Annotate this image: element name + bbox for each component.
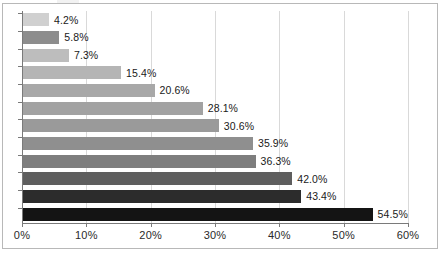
y-axis-tick [18, 137, 22, 138]
y-axis-tick [18, 172, 22, 173]
bar [22, 208, 373, 221]
y-axis-spine [22, 11, 23, 224]
bar-chart-figure: 4.2%5.8%7.3%15.4%20.6%28.1%30.6%35.9%36.… [0, 0, 441, 255]
y-axis-tick [18, 49, 22, 50]
bar [22, 49, 69, 62]
bar-value-label: 35.9% [258, 137, 288, 149]
bar-value-label: 20.6% [160, 84, 190, 96]
bar [22, 137, 253, 150]
bar-value-label: 54.5% [378, 208, 408, 220]
bar-value-label: 36.3% [261, 155, 291, 167]
y-axis-tick [18, 31, 22, 32]
bar-row: 4.2% [22, 13, 408, 26]
y-axis-tick [18, 119, 22, 120]
bar-row: 7.3% [22, 49, 408, 62]
bar-row: 43.4% [22, 190, 408, 203]
x-axis-tick [408, 223, 409, 227]
x-axis-tick-label: 20% [139, 229, 162, 241]
bar [22, 119, 219, 132]
x-axis-tick [22, 223, 23, 227]
y-axis-tick [18, 13, 22, 14]
bar-value-label: 43.4% [306, 190, 336, 202]
x-axis-tick-label: 10% [75, 229, 98, 241]
bar-value-label: 7.3% [74, 49, 98, 61]
bar-value-label: 4.2% [54, 14, 78, 26]
x-axis-tick [344, 223, 345, 227]
bar [22, 190, 301, 203]
bar-row: 30.6% [22, 119, 408, 132]
bar-row: 36.3% [22, 155, 408, 168]
bar-value-label: 28.1% [208, 102, 238, 114]
x-axis-tick [86, 223, 87, 227]
bar-row: 28.1% [22, 102, 408, 115]
y-axis-tick [18, 66, 22, 67]
x-axis-tick-label: 40% [268, 229, 291, 241]
x-axis-tick-label: 50% [332, 229, 355, 241]
plot-area: 4.2%5.8%7.3%15.4%20.6%28.1%30.6%35.9%36.… [22, 11, 408, 223]
bar-row: 42.0% [22, 172, 408, 185]
y-axis-tick [18, 84, 22, 85]
y-axis-tick [18, 102, 22, 103]
y-axis-tick [18, 190, 22, 191]
x-axis-tick-label: 0% [14, 229, 30, 241]
x-axis-tick-label: 60% [397, 229, 420, 241]
bar [22, 13, 49, 26]
bar-row: 5.8% [22, 31, 408, 44]
bar [22, 172, 292, 185]
bar-row: 20.6% [22, 84, 408, 97]
bar-value-label: 15.4% [126, 67, 156, 79]
bar [22, 102, 203, 115]
x-axis-tick [151, 223, 152, 227]
bar [22, 66, 121, 79]
bar-value-label: 42.0% [297, 173, 327, 185]
bar [22, 31, 59, 44]
x-axis-tick [279, 223, 280, 227]
x-axis-tick-label: 30% [204, 229, 227, 241]
y-axis-tick [18, 155, 22, 156]
y-axis-tick [18, 208, 22, 209]
bar [22, 155, 256, 168]
bar-row: 15.4% [22, 66, 408, 79]
bar-series: 4.2%5.8%7.3%15.4%20.6%28.1%30.6%35.9%36.… [22, 11, 408, 223]
bar-value-label: 30.6% [224, 120, 254, 132]
bar [22, 84, 155, 97]
x-axis-tick [215, 223, 216, 227]
bar-row: 54.5% [22, 208, 408, 221]
bar-value-label: 5.8% [64, 31, 88, 43]
bar-row: 35.9% [22, 137, 408, 150]
x-axis-spine [22, 223, 409, 224]
